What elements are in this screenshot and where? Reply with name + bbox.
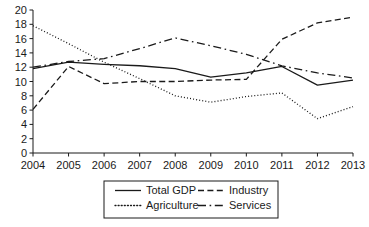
x-tick-label: 2010 xyxy=(234,159,258,171)
line-chart-figure: 02468101214161820 2004200520062007200820… xyxy=(0,0,369,227)
y-tick-label: 12 xyxy=(15,61,27,73)
x-tick-label: 2009 xyxy=(199,159,223,171)
y-tick-label: 18 xyxy=(15,18,27,30)
y-tick-label: 10 xyxy=(15,76,27,88)
legend-label-total-gdp: Total GDP xyxy=(146,184,196,196)
x-tick-label: 2013 xyxy=(341,159,365,171)
data-series-group xyxy=(33,17,353,119)
legend-label-agriculture: Agriculture xyxy=(146,199,199,211)
y-tick-label: 8 xyxy=(21,90,27,102)
y-tick-label: 20 xyxy=(15,4,27,16)
x-tick-label: 2007 xyxy=(127,159,151,171)
legend-label-industry: Industry xyxy=(229,184,269,196)
y-tick-label: 2 xyxy=(21,133,27,145)
x-tick-label: 2005 xyxy=(56,159,80,171)
x-axis: 2004200520062007200820092010201120122013 xyxy=(21,153,365,171)
y-axis: 02468101214161820 xyxy=(15,4,33,159)
y-tick-label: 16 xyxy=(15,33,27,45)
x-tick-label: 2008 xyxy=(163,159,187,171)
x-tick-label: 2012 xyxy=(305,159,329,171)
x-tick-label: 2006 xyxy=(92,159,116,171)
chart-canvas: 02468101214161820 2004200520062007200820… xyxy=(0,0,369,227)
x-tick-label: 2004 xyxy=(21,159,45,171)
y-tick-label: 4 xyxy=(21,118,27,130)
y-tick-label: 14 xyxy=(15,47,27,59)
chart-legend: Total GDPIndustryAgricultureServices xyxy=(104,181,278,218)
legend-label-services: Services xyxy=(229,199,272,211)
series-line-total-gdp xyxy=(33,62,353,85)
y-tick-label: 6 xyxy=(21,104,27,116)
x-tick-label: 2011 xyxy=(270,159,294,171)
y-tick-label: 0 xyxy=(21,147,27,159)
